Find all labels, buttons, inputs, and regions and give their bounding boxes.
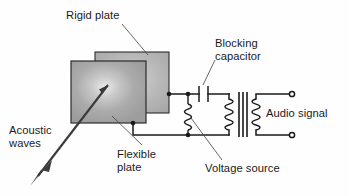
label-blocking-capacitor-line2: capacitor — [215, 50, 261, 62]
label-acoustic-waves-line2: waves — [8, 137, 41, 149]
coil-windings — [185, 104, 192, 130]
label-flexible-plate-line2: plate — [117, 161, 142, 173]
wire-bottom-from-flexible-plate — [133, 123, 188, 135]
leader-rigid-plate — [122, 24, 148, 55]
acoustic-arrow-head-lower — [30, 160, 52, 186]
junction-dot-top-branch — [186, 92, 191, 97]
transformer-primary-winding — [225, 99, 233, 130]
leader-voltage-source — [191, 118, 222, 160]
flexible-plate — [71, 61, 146, 123]
label-rigid-plate: Rigid plate — [66, 9, 119, 21]
label-voltage-source: Voltage source — [205, 162, 280, 174]
terminal-node-bottom — [289, 132, 294, 137]
diagram-canvas: Rigid plate Blocking capacitor Audio sig… — [0, 0, 349, 196]
junction-dot-flexible-plate — [131, 121, 136, 126]
junction-dot-rigid-plate — [167, 92, 172, 97]
leader-blocking-capacitor — [203, 60, 215, 85]
label-blocking-capacitor-line1: Blocking — [215, 37, 258, 49]
label-acoustic-waves-line1: Acoustic — [9, 124, 52, 136]
flexible-plate-body — [71, 61, 146, 123]
terminal-node-top — [289, 91, 294, 96]
voltage-source-symbol — [185, 94, 192, 135]
transformer-symbol — [225, 92, 260, 137]
capacitor-symbol — [199, 86, 208, 102]
label-audio-signal: Audio signal — [266, 107, 328, 119]
label-flexible-plate-line1: Flexible — [117, 148, 156, 160]
junction-dot-bottom-branch — [186, 133, 191, 138]
microphone-diagram: Rigid plate Blocking capacitor Audio sig… — [0, 0, 349, 196]
wire-secondary-bottom-lead — [256, 130, 290, 135]
transformer-secondary-winding — [252, 99, 260, 130]
wire-secondary-top-lead — [256, 94, 290, 99]
